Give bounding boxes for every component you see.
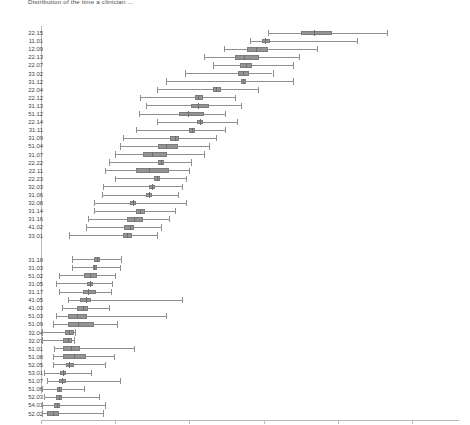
boxplot-row-label: 22.14 [28, 118, 43, 126]
whisker-cap [387, 30, 388, 36]
whisker-cap [317, 46, 318, 52]
box-iqr[interactable] [247, 47, 268, 52]
boxplot-row[interactable]: 22.07 [0, 61, 470, 69]
boxplot-row[interactable]: 51.06 [0, 385, 470, 393]
boxplot-row[interactable]: 31.06 [0, 191, 470, 199]
boxplot-row[interactable]: 32.07 [0, 337, 470, 345]
whisker-line [103, 186, 182, 187]
boxplot-row[interactable]: 22.12 [0, 94, 470, 102]
boxplot-row-label: 52.05 [28, 361, 43, 369]
median-line [77, 314, 78, 319]
boxplot-row[interactable]: 31.07 [0, 151, 470, 159]
boxplot-row[interactable]: 12.09 [0, 45, 470, 53]
boxplot-row[interactable]: 22.14 [0, 118, 470, 126]
boxplot-row[interactable]: 51.07 [0, 377, 470, 385]
boxplot-row[interactable]: 51.02 [0, 272, 470, 280]
box-iqr[interactable] [68, 322, 95, 327]
boxplot-row[interactable]: 22.22 [0, 159, 470, 167]
boxplot-row-label: 32.07 [28, 337, 43, 345]
box-iqr[interactable] [235, 55, 259, 60]
median-line [140, 209, 141, 214]
box-iqr[interactable] [143, 152, 167, 157]
whisker-cap [204, 54, 205, 60]
boxplot-row[interactable]: 22.15 [0, 29, 470, 37]
boxplot-row[interactable]: 32.08 [0, 199, 470, 207]
boxplot-row[interactable]: 31.05 [0, 280, 470, 288]
median-line [152, 152, 153, 157]
whisker-cap [105, 402, 106, 408]
box-iqr[interactable] [158, 144, 177, 149]
boxplot-row[interactable]: 51.08 [0, 353, 470, 361]
boxplot-row-label: 31.14 [28, 207, 43, 215]
boxplot-row-label: 51.09 [28, 320, 43, 328]
whisker-cap [91, 370, 92, 376]
boxplot-row[interactable]: 54.01 [0, 401, 470, 409]
boxplot-row[interactable]: 22.23 [0, 175, 470, 183]
boxplot-row[interactable]: 41.02 [0, 223, 470, 231]
boxplot-row-label: 31.13 [28, 102, 43, 110]
boxplot-row-label: 54.01 [28, 401, 43, 409]
boxplot-row[interactable]: 41.03 [0, 304, 470, 312]
boxplot-row-label: 31.06 [28, 191, 43, 199]
whisker-cap [224, 46, 225, 52]
boxplot-row-label: 22.13 [28, 53, 43, 61]
boxplot-row-label: 22.22 [28, 159, 43, 167]
boxplot-row[interactable]: 52.03 [0, 393, 470, 401]
whisker-cap [293, 62, 294, 68]
boxplot-row[interactable]: 33.01 [0, 232, 470, 240]
boxplot-row[interactable]: 31.12 [0, 78, 470, 86]
median-line [90, 273, 91, 278]
whisker-cap [209, 143, 210, 149]
boxplot-row[interactable]: 22.13 [0, 53, 470, 61]
boxplot-row[interactable]: 52.05 [0, 361, 470, 369]
boxplot-row[interactable]: 31.16 [0, 215, 470, 223]
boxplot-row[interactable]: 31.03 [0, 264, 470, 272]
boxplot-row[interactable]: 51.09 [0, 320, 470, 328]
box-iqr[interactable] [179, 112, 204, 117]
boxplot-row[interactable]: 53.01 [0, 369, 470, 377]
boxplot-row-label: 33.02 [28, 70, 43, 78]
boxplot-row[interactable]: 31.11 [0, 126, 470, 134]
boxplot-row[interactable]: 22.04 [0, 86, 470, 94]
whisker-cap [115, 273, 116, 279]
boxplot-row[interactable]: 31.14 [0, 207, 470, 215]
whisker-cap [105, 168, 106, 174]
boxplot-row[interactable]: 32.03 [0, 183, 470, 191]
whisker-cap [62, 305, 63, 311]
boxplot-row-label: 52.02 [28, 410, 43, 418]
whisker-cap [68, 297, 69, 303]
whisker-cap [42, 337, 43, 343]
whisker-cap [72, 256, 73, 262]
boxplot-row[interactable]: 51.12 [0, 110, 470, 118]
boxplot-row-label: 22.12 [28, 94, 43, 102]
whisker-cap [99, 394, 100, 400]
boxplot-row[interactable]: 51.03 [0, 312, 470, 320]
boxplot-row-label: 51.06 [28, 385, 43, 393]
boxplot-row[interactable]: 11.01 [0, 37, 470, 45]
boxplot-row[interactable]: 31.17 [0, 288, 470, 296]
boxplot-row[interactable]: 22.11 [0, 167, 470, 175]
whisker-cap [123, 135, 124, 141]
whisker-line [115, 178, 186, 179]
median-line [83, 306, 84, 311]
median-line [256, 47, 257, 52]
box-iqr[interactable] [301, 31, 332, 36]
box-iqr[interactable] [191, 104, 209, 109]
boxplot-row[interactable]: 32.04 [0, 329, 470, 337]
boxplot-row[interactable]: 31.09 [0, 134, 470, 142]
boxplot-row[interactable]: 31.18 [0, 256, 470, 264]
boxplot-row[interactable]: 51.01 [0, 345, 470, 353]
boxplot-row[interactable]: 31.13 [0, 102, 470, 110]
boxplot-row-label: 31.18 [28, 256, 43, 264]
boxplot-row-label: 22.23 [28, 175, 43, 183]
box-iqr[interactable] [136, 168, 169, 173]
whisker-cap [273, 70, 274, 76]
boxplot-row[interactable]: 51.04 [0, 142, 470, 150]
boxplot-row[interactable]: 33.02 [0, 70, 470, 78]
whisker-cap [157, 119, 158, 125]
boxplot-row[interactable]: 41.05 [0, 296, 470, 304]
whisker-line [53, 364, 105, 365]
whisker-cap [146, 103, 147, 109]
whisker-cap [109, 305, 110, 311]
boxplot-row[interactable]: 52.02 [0, 410, 470, 418]
